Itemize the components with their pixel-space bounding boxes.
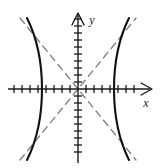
y-axis-label: y [88,13,95,27]
x-axis-label: x [142,96,149,110]
hyperbola-figure: x [0,0,160,168]
plot-background [0,0,160,168]
plot-canvas: x [0,0,160,168]
